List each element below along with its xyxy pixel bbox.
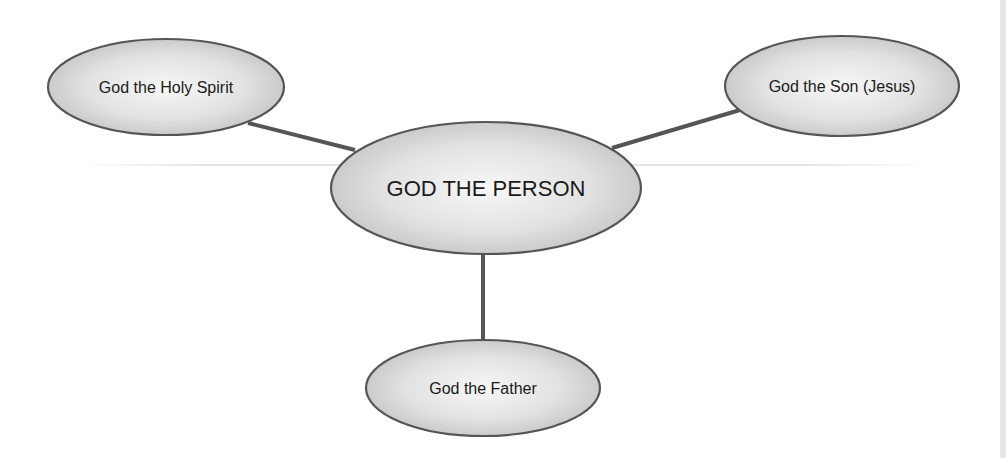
node-father-label: God the Father bbox=[429, 380, 537, 397]
node-holy-spirit-label: God the Holy Spirit bbox=[99, 79, 234, 96]
edge-center-to-son bbox=[612, 110, 740, 148]
node-son: God the Son (Jesus) bbox=[725, 36, 959, 136]
node-center: GOD THE PERSON bbox=[331, 122, 641, 254]
concept-map: God the Holy Spirit God the Son (Jesus) … bbox=[0, 0, 1006, 458]
edge-center-to-holy-spirit bbox=[248, 123, 355, 150]
node-son-label: God the Son (Jesus) bbox=[769, 78, 916, 95]
node-holy-spirit: God the Holy Spirit bbox=[48, 39, 284, 135]
page-edge-strip bbox=[1000, 0, 1006, 458]
node-father: God the Father bbox=[366, 340, 600, 436]
diagram-canvas: God the Holy Spirit God the Son (Jesus) … bbox=[0, 0, 1006, 458]
node-center-label: GOD THE PERSON bbox=[387, 176, 586, 201]
